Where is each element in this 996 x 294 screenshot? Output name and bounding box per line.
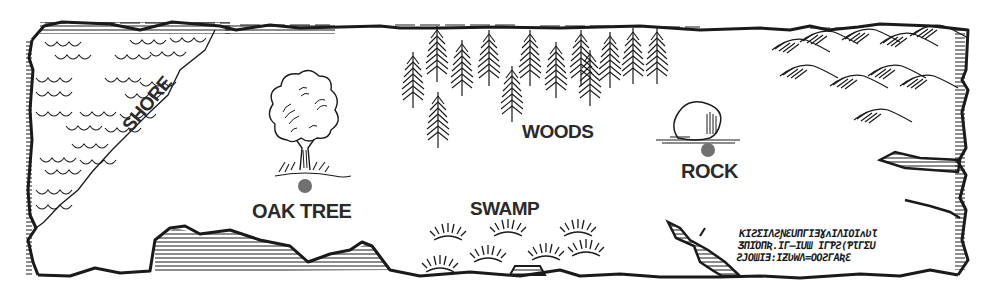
right-border <box>880 26 968 275</box>
label-woods: WOODS <box>522 121 593 143</box>
cryptic-inscription: ƘIƧƩIΛƧƝƐUΠΓIƎƔʌIΛIΟIʌƲƖƷΠIΌΠƦ.IΓ–IUƜ IΓ… <box>735 227 877 263</box>
oak-tree-icon <box>269 70 351 177</box>
inscription-line: ƷΠIΌΠƦ.IΓ–IUƜ IΓƤƧ(ƤƖΓƩU <box>737 239 876 251</box>
swamp-tufts <box>422 219 604 272</box>
inscription-line: ƧJΟƜIƎ:IƵƲWΛ=ΟΟƧΓΑƦƐ <box>735 251 874 263</box>
top-border <box>32 22 932 40</box>
rock-icon <box>656 102 740 143</box>
left-border <box>26 40 38 275</box>
mountains <box>772 25 968 123</box>
label-swamp: SWAMP <box>470 198 539 220</box>
rock-marker-dot <box>701 143 715 157</box>
label-rock: ROCK <box>681 160 738 183</box>
label-oak-tree: OAK TREE <box>252 200 351 223</box>
treasure-map: SHORE OAK TREE WOODS ROCK SWAMP ƘIƧƩIΛƧƝ… <box>0 0 996 294</box>
oak-tree-marker-dot <box>298 179 312 193</box>
inscription-line: ƘIƧƩIΛƧƝƐUΠΓIƎƔʌIΛIΟIʌƲƖ <box>739 227 878 239</box>
